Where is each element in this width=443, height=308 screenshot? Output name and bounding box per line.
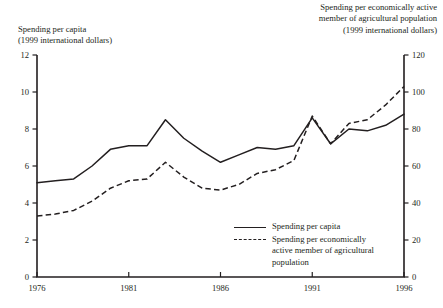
y-axis-tick-label: 8	[25, 124, 29, 134]
y-axis-tick-label: 10	[20, 87, 29, 97]
y2-axis-tick-label: 40	[412, 198, 421, 208]
x-axis-tick-label: 1981	[120, 283, 137, 293]
y-axis-tick-label: 4	[25, 198, 30, 208]
y2-axis-tick-label: 60	[412, 161, 421, 171]
legend-item-spending-per-active-member: Spending per economically active member …	[232, 234, 374, 269]
y2-axis-tick-label: 0	[412, 272, 416, 282]
y-axis-tick-label: 6	[25, 161, 30, 171]
y-axis-tick-label: 0	[25, 272, 29, 282]
y2-axis-tick-label: 80	[412, 124, 421, 134]
x-axis-tick-label: 1991	[304, 283, 321, 293]
legend-item-spending-per-capita: Spending per capita	[232, 221, 374, 233]
x-axis-tick-label: 1976	[28, 283, 46, 293]
right-axis-title: Spending per economically active member …	[319, 2, 437, 36]
x-axis-tick-label: 1986	[212, 283, 230, 293]
legend-label: Spending per capita	[272, 221, 340, 233]
x-axis-tick-label: 1996	[395, 283, 413, 293]
y-axis-tick-label: 12	[20, 50, 29, 60]
y2-axis-tick-label: 20	[412, 235, 421, 245]
legend-swatch-solid-line-icon	[232, 221, 268, 233]
legend-label: Spending per economically active member …	[272, 234, 374, 269]
legend-swatch-dashed-line-icon	[232, 234, 268, 246]
left-axis-title: Spending per capita (1999 international …	[18, 24, 112, 47]
series-line-2	[37, 86, 404, 216]
y-axis-tick-label: 2	[25, 235, 29, 245]
y2-axis-tick-label: 100	[412, 87, 425, 97]
y2-axis-tick-label: 120	[412, 50, 425, 60]
chart-legend: Spending per capita Spending per economi…	[232, 221, 374, 269]
